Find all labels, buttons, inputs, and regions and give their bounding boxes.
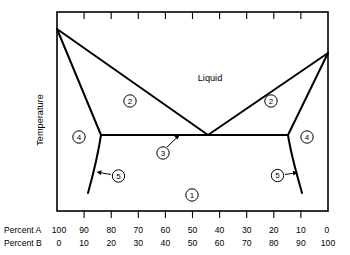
x-tick-label-a: 90	[79, 225, 89, 235]
region-marker-two-right: 2	[265, 95, 277, 107]
x-axis-row-label-b: Percent B	[4, 238, 42, 248]
region-marker-label: 5	[275, 171, 280, 180]
solidus-right-curve	[288, 53, 328, 135]
x-tick-label-a: 100	[52, 225, 67, 235]
solvus-left-curve	[88, 135, 101, 193]
region-marker-label: 3	[161, 149, 166, 158]
region-marker-label: 2	[269, 97, 274, 106]
callout-five-solvus-left: 5	[97, 170, 125, 182]
x-tick-label-b: 90	[296, 238, 306, 248]
phase-diagram-canvas: Liquid 2 2 4 4 3	[0, 0, 350, 255]
solvus-right-curve	[288, 135, 302, 193]
x-tick-label-a: 40	[215, 225, 225, 235]
region-marker-label: 4	[305, 133, 310, 142]
top-tick-group	[84, 12, 301, 19]
x-tick-label-b: 40	[161, 238, 171, 248]
bottom-tick-group	[84, 211, 301, 218]
x-tick-label-a: 60	[161, 225, 171, 235]
region-marker-label: 2	[128, 97, 133, 106]
x-axis-row-percent-b: Percent B 0 10 20 30 40 50 60 70 80 90 1…	[4, 238, 335, 248]
x-tick-label-a: 10	[296, 225, 306, 235]
x-axis-row-percent-a: Percent A 100 90 80 70 60 50 40 30 20 10…	[4, 225, 330, 235]
callout-three-eutectic: 3	[157, 135, 180, 159]
region-marker-two-left: 2	[124, 95, 136, 107]
x-axis-row-label-a: Percent A	[4, 225, 42, 235]
callout-five-solvus-right: 5	[271, 169, 298, 181]
phase-diagram-figure: Liquid 2 2 4 4 3	[0, 0, 350, 255]
x-tick-label-b: 80	[269, 238, 279, 248]
plot-frame	[57, 12, 328, 211]
x-tick-label-b: 10	[79, 238, 89, 248]
region-marker-four-left: 4	[73, 131, 85, 143]
x-tick-label-a: 70	[134, 225, 144, 235]
x-tick-label-b: 20	[106, 238, 116, 248]
callout-arrowhead	[97, 170, 102, 175]
x-tick-label-b: 30	[134, 238, 144, 248]
region-marker-label: 1	[190, 191, 195, 200]
x-tick-label-a: 0	[325, 225, 330, 235]
region-marker-label: 5	[116, 172, 121, 181]
x-tick-label-a: 30	[242, 225, 252, 235]
region-label-liquid: Liquid	[198, 73, 223, 83]
x-tick-label-b: 60	[215, 238, 225, 248]
x-tick-label-b: 50	[188, 238, 198, 248]
region-marker-four-right: 4	[301, 131, 313, 143]
x-tick-label-a: 20	[269, 225, 279, 235]
x-tick-label-b: 70	[242, 238, 252, 248]
x-tick-label-b: 100	[321, 238, 336, 248]
y-axis-title: Temperature	[35, 94, 45, 146]
x-tick-label-a: 80	[106, 225, 116, 235]
region-marker-one-bottom: 1	[186, 189, 198, 201]
x-tick-label-b: 0	[57, 238, 62, 248]
region-marker-label: 4	[77, 133, 82, 142]
liquidus-right-curve	[208, 53, 328, 135]
x-tick-label-a: 50	[188, 225, 198, 235]
